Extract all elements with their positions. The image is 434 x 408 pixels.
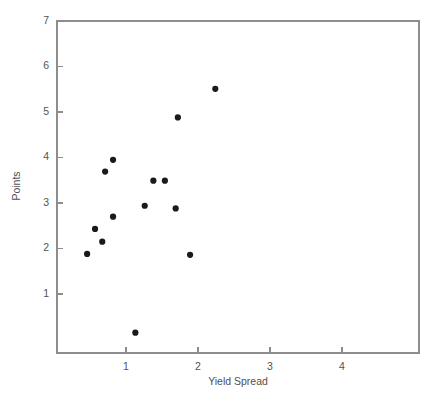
- data-point: [150, 178, 156, 184]
- y-tick-label: 3: [43, 196, 49, 208]
- x-tick-label: 1: [123, 360, 129, 372]
- y-tick-label: 5: [43, 105, 49, 117]
- data-point: [110, 214, 116, 220]
- data-point: [212, 86, 218, 92]
- y-tick-label: 6: [43, 59, 49, 71]
- data-point: [84, 251, 90, 257]
- data-point: [110, 157, 116, 163]
- data-point: [162, 178, 168, 184]
- data-point: [175, 114, 181, 120]
- y-tick-label: 4: [43, 150, 49, 162]
- x-axis-title: Yield Spread: [208, 375, 268, 387]
- data-point: [142, 203, 148, 209]
- y-axis-title: Points: [10, 171, 22, 200]
- x-tick-label: 3: [267, 360, 273, 372]
- figure-background: [0, 0, 434, 408]
- data-point: [187, 252, 193, 258]
- scatter-plot-figure: 1234567 1234 Yield Spread Points: [0, 0, 434, 408]
- x-tick-label: 2: [195, 360, 201, 372]
- data-point: [173, 205, 179, 211]
- data-point: [99, 239, 105, 245]
- y-tick-label: 1: [43, 287, 49, 299]
- y-tick-label: 2: [43, 241, 49, 253]
- x-tick-label: 4: [339, 360, 345, 372]
- data-point: [92, 226, 98, 232]
- y-tick-label: 7: [43, 14, 49, 26]
- plot-canvas: 1234567 1234 Yield Spread Points: [0, 0, 434, 408]
- data-point: [132, 330, 138, 336]
- data-point: [102, 169, 108, 175]
